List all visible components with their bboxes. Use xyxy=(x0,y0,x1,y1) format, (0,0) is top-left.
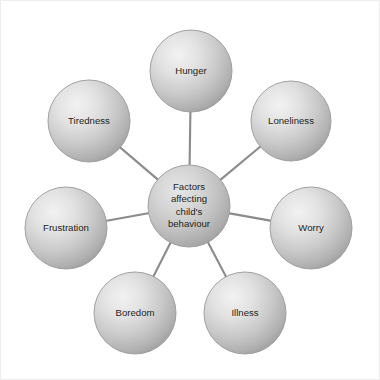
node-label-worry: Worry xyxy=(298,222,324,233)
connector-hunger xyxy=(190,111,191,166)
central-node-label-line-2: affecting xyxy=(171,193,207,204)
diagram-canvas: HungerLonelinessWorryIllnessBoredomFrust… xyxy=(0,0,380,380)
node-loneliness[interactable]: Loneliness xyxy=(251,81,331,161)
central-node-label-line-4: behaviour xyxy=(168,218,211,229)
node-hunger[interactable]: Hunger xyxy=(150,30,232,112)
node-frustration[interactable]: Frustration xyxy=(25,187,107,269)
node-tiredness[interactable]: Tiredness xyxy=(48,80,130,162)
connector-worry xyxy=(228,213,271,221)
node-boredom[interactable]: Boredom xyxy=(94,272,176,354)
node-label-hunger: Hunger xyxy=(175,65,207,76)
node-label-loneliness: Loneliness xyxy=(268,115,314,126)
central-node[interactable]: Factorsaffectingchild'sbehaviour xyxy=(148,165,230,247)
central-node-label-line-3: child's xyxy=(176,206,203,217)
node-worry[interactable]: Worry xyxy=(270,187,352,269)
central-node-label-line-1: Factors xyxy=(173,181,205,192)
connector-boredom xyxy=(153,242,171,278)
node-illness[interactable]: Illness xyxy=(204,272,286,354)
node-label-frustration: Frustration xyxy=(43,222,89,233)
connector-frustration xyxy=(105,213,149,221)
hub-layer: Factorsaffectingchild'sbehaviour xyxy=(148,165,230,247)
connector-illness xyxy=(208,241,227,277)
connector-tiredness xyxy=(119,147,158,180)
radial-diagram: HungerLonelinessWorryIllnessBoredomFrust… xyxy=(1,1,380,380)
connector-loneliness xyxy=(220,146,261,180)
node-label-tiredness: Tiredness xyxy=(68,115,110,126)
node-label-boredom: Boredom xyxy=(116,307,155,318)
node-label-illness: Illness xyxy=(231,307,258,318)
